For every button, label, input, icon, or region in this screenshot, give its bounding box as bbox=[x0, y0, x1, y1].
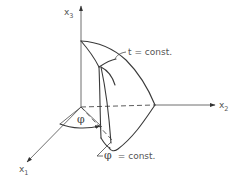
x2-axis bbox=[81, 105, 215, 107]
surface-outline bbox=[81, 41, 155, 151]
x3-axis-label: x3 bbox=[64, 7, 73, 20]
t-const-label: t = const. bbox=[128, 47, 172, 57]
coordinate-diagram: x3 x2 x1 φ t = co bbox=[0, 0, 244, 179]
x2-axis-label: x2 bbox=[219, 100, 228, 113]
x1-axis-label: x1 bbox=[19, 164, 28, 177]
x1-axis bbox=[27, 107, 81, 162]
phi-angle-label: φ bbox=[77, 113, 85, 126]
phi-const-label: φ = const. bbox=[104, 144, 155, 163]
